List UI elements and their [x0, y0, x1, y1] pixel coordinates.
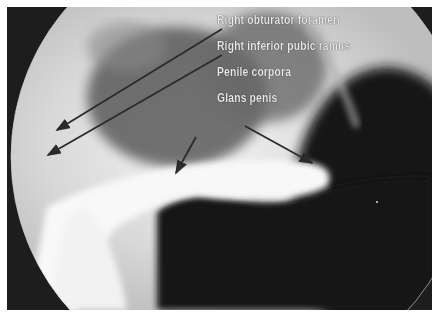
label-penile-corpora: Penile corpora [217, 65, 291, 79]
label-right-obturator-foramen: Right obturator foramen [217, 13, 340, 27]
label-glans-penis: Glans penis [217, 91, 277, 105]
radiograph-image: Right obturator foramen Right inferior p… [7, 7, 432, 310]
label-right-inferior-pubic-ramus: Right inferior pubic ramus [217, 39, 350, 53]
